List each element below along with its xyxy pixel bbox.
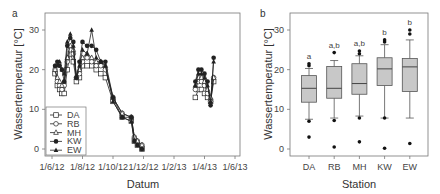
x-tick-label: DA bbox=[303, 162, 316, 172]
y-tick-label: 0 bbox=[34, 144, 39, 154]
panel-b-x-axis: DARBMHKWEW bbox=[303, 156, 418, 172]
x-tick-label: EW bbox=[403, 162, 418, 172]
outlier-point bbox=[383, 116, 387, 120]
box-da: a bbox=[302, 52, 317, 139]
outlier-point bbox=[332, 51, 336, 55]
x-tick-label: KW bbox=[377, 162, 392, 172]
x-tick-label: 1/4/13 bbox=[192, 162, 217, 172]
y-tick-label: 20 bbox=[29, 65, 39, 75]
outlier-point bbox=[408, 32, 412, 36]
legend-label: EW bbox=[67, 145, 82, 155]
x-tick-label: 1/2/13 bbox=[161, 162, 186, 172]
x-tick-label: 1/12/12 bbox=[128, 162, 158, 172]
significance-label: b bbox=[382, 28, 387, 37]
outlier-point bbox=[307, 135, 311, 139]
panel-b-x-label: Station bbox=[342, 178, 376, 190]
panel-b-y-label: Wassertemperatur [°C] bbox=[262, 28, 274, 140]
significance-label: b bbox=[408, 18, 413, 27]
outlier-point bbox=[408, 142, 412, 146]
y-tick-label: 10 bbox=[274, 104, 284, 114]
outlier-point bbox=[307, 119, 311, 123]
x-tick-label: 1/8/12 bbox=[70, 162, 95, 172]
outlier-point bbox=[383, 146, 387, 150]
outlier-point bbox=[332, 119, 336, 123]
x-tick-label: 1/10/12 bbox=[98, 162, 128, 172]
outlier-point bbox=[408, 28, 412, 32]
panel-a-label: a bbox=[12, 8, 18, 19]
x-tick-label: 1/6/13 bbox=[222, 162, 247, 172]
outlier-point bbox=[358, 49, 362, 53]
x-tick-label: 1/6/12 bbox=[39, 162, 64, 172]
panel-a-x-axis: 1/6/121/8/121/10/121/12/121/2/131/4/131/… bbox=[39, 156, 247, 172]
x-tick-label: MH bbox=[352, 162, 366, 172]
panel-b-y-axis: 0102030 bbox=[274, 25, 290, 154]
significance-label: a,b bbox=[354, 39, 366, 48]
y-tick-label: 0 bbox=[279, 144, 284, 154]
significance-label: a,b bbox=[329, 41, 341, 50]
outlier-point bbox=[307, 62, 311, 66]
y-tick-label: 30 bbox=[29, 25, 39, 35]
outlier-point bbox=[358, 140, 362, 144]
y-tick-label: 20 bbox=[274, 65, 284, 75]
panel-a-x-label: Datum bbox=[127, 178, 159, 190]
outlier-point bbox=[383, 38, 387, 42]
box-rb: a,b bbox=[327, 41, 342, 149]
outlier-point bbox=[358, 116, 362, 120]
outlier-point bbox=[332, 145, 336, 149]
panel-a-legend: DARBMHKWEW bbox=[46, 107, 86, 155]
box-mh: a,b bbox=[352, 39, 367, 144]
panel-b-boxes: aa,ba,bbb bbox=[302, 18, 418, 150]
panel-b-label: b bbox=[260, 8, 266, 19]
x-tick-label: RB bbox=[328, 162, 341, 172]
y-tick-label: 10 bbox=[29, 104, 39, 114]
figure: a 0102030 1/6/121/8/121/10/121/12/121/2/… bbox=[0, 0, 440, 194]
significance-label: a bbox=[307, 52, 312, 61]
panel-a-y-label: Wassertemperatur [°C] bbox=[12, 28, 24, 140]
box-ew: b bbox=[402, 18, 417, 145]
panel-a: a 0102030 1/6/121/8/121/10/121/12/121/2/… bbox=[12, 8, 248, 190]
box-kw: b bbox=[377, 28, 392, 150]
panel-b: b 0102030 DARBMHKWEW aa,ba,bbb Station W… bbox=[260, 8, 428, 190]
y-tick-label: 30 bbox=[274, 25, 284, 35]
panel-a-y-axis: 0102030 bbox=[29, 25, 45, 154]
